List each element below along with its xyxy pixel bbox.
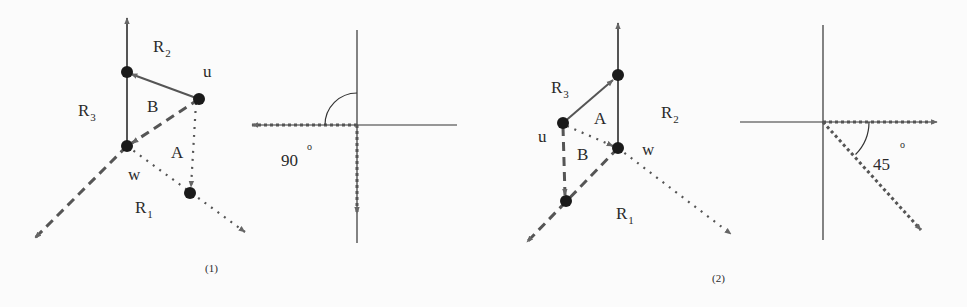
label-r2: R2 <box>153 37 171 59</box>
angle-arc <box>856 122 869 155</box>
label-subscript: 3 <box>563 88 569 100</box>
node-w <box>121 140 133 152</box>
label-subscript: 3 <box>90 111 96 123</box>
label-b: B <box>577 145 588 164</box>
w-dashed-down-left-arrow <box>527 148 618 242</box>
node-top <box>612 69 624 81</box>
label-w: w <box>642 140 655 159</box>
node-top <box>121 66 133 78</box>
node-w <box>612 142 624 154</box>
label-u: u <box>203 62 212 81</box>
label-subscript: 1 <box>147 208 153 220</box>
label-w: w <box>128 165 141 184</box>
label-u: u <box>538 127 547 146</box>
angle-arc <box>325 93 357 125</box>
label-r1: R1 <box>135 198 153 220</box>
node-bottom <box>184 187 196 199</box>
u-to-bottom-dashed-arrow <box>563 127 565 195</box>
label-r3: R3 <box>551 78 569 100</box>
angle-label: 45 <box>873 155 890 174</box>
u-to-top-arrow <box>131 74 199 99</box>
diagram-canvas: R2uR3BAwR190o(1) R3AR2uBwR145o(2) <box>0 0 967 307</box>
degree-symbol: o <box>307 141 312 152</box>
u-to-w-dashed-arrow <box>132 99 199 143</box>
node-u <box>193 93 205 105</box>
node-u <box>557 117 569 129</box>
label-r3: R3 <box>78 101 96 123</box>
diagonal-vector <box>823 122 921 230</box>
figure-2: R3AR2uBwR145o(2) <box>527 23 937 285</box>
label-r1: R1 <box>616 204 634 226</box>
label-b: B <box>147 97 158 116</box>
label-subscript: 1 <box>628 214 634 226</box>
label-subscript: 2 <box>673 113 679 125</box>
label-r2: R2 <box>661 103 679 125</box>
figure-1: R2uR3BAwR190o(1) <box>35 18 457 275</box>
label-a: A <box>594 109 607 128</box>
figure-caption: (2) <box>712 272 725 285</box>
angle-label: 90 <box>281 151 298 170</box>
w-dashed-down-left-arrow <box>35 146 127 238</box>
label-subscript: 2 <box>165 47 171 59</box>
w-dotted-down-right-arrow <box>618 148 731 234</box>
u-to-bottom-dotted-arrow <box>191 103 196 187</box>
label-a: A <box>171 143 184 162</box>
degree-symbol: o <box>900 139 905 150</box>
node-bottom <box>560 195 572 207</box>
u-to-w-dotted-arrow <box>567 126 613 146</box>
figure-caption: (1) <box>205 262 218 275</box>
